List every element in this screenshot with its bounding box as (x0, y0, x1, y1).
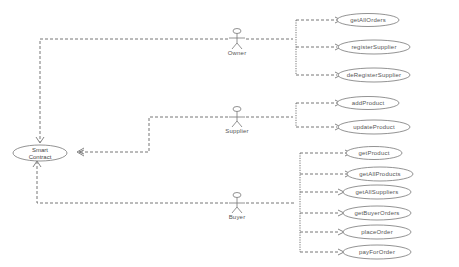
actor-owner-label: Owner (228, 50, 247, 56)
actor-buyer-icon (229, 193, 245, 214)
actor-supplier-label: Supplier (225, 128, 249, 134)
use-case-label: getAllProducts (359, 171, 401, 177)
edge-owner-smart-contract (40, 39, 228, 142)
use-case-label: getProduct (358, 150, 389, 156)
use-case-label: getAllSuppliers (355, 189, 398, 195)
use-case-label: payForOrder (359, 249, 395, 255)
use-case-label: registerSupplier (351, 44, 396, 50)
use-case-label: deRegisterSupplier (347, 72, 402, 78)
use-case-label: getAllOrders (350, 17, 386, 23)
use-case-label: addProduct (352, 100, 385, 106)
use-case-label: updateProduct (353, 124, 395, 130)
actor-owner-icon (229, 29, 245, 50)
smart-contract-label: Smart Contract (29, 147, 52, 160)
edge-buyer-smart-contract (37, 162, 228, 203)
use-case-label: placeOrder (361, 229, 393, 235)
actor-supplier-icon (229, 107, 245, 128)
smart-contract-label-line2: Contract (29, 153, 52, 160)
edge-supplier-smart-contract (80, 117, 228, 152)
use-case-label: getBuyerOrders (354, 210, 399, 216)
smart-contract-label-line1: Smart (29, 147, 52, 154)
actor-buyer-label: Buyer (229, 214, 246, 220)
